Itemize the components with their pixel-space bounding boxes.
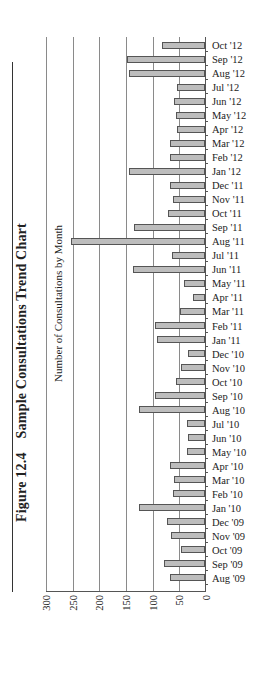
x-axis-category-label: Feb '12: [212, 152, 243, 163]
gridline: [46, 37, 47, 591]
x-axis-tick: [205, 177, 208, 178]
bar: [127, 56, 205, 63]
x-axis-tick: [205, 233, 208, 234]
x-axis-tick: [205, 191, 208, 192]
x-axis-category-label: Oct '10: [212, 377, 242, 388]
x-axis-category-label: Oct '11: [212, 208, 242, 219]
x-axis-category-label: Jul '10: [212, 419, 239, 430]
x-axis-category-label: May '10: [212, 447, 246, 458]
x-axis-category-label: Jun '12: [212, 96, 242, 107]
bar: [129, 168, 205, 175]
figure-title-text: Sample Consultations Trend Chart: [14, 223, 29, 438]
x-axis-tick: [205, 416, 208, 417]
x-axis-category-label: Jun '11: [212, 264, 241, 275]
bar: [176, 378, 205, 385]
x-axis-category-label: Mar '12: [212, 138, 245, 149]
y-axis-tick-label: 300: [41, 595, 52, 611]
x-axis-tick: [205, 51, 208, 52]
bar: [164, 560, 205, 567]
x-axis-category-label: Jan '11: [212, 335, 241, 346]
x-axis-category-label: Jun '10: [212, 433, 242, 444]
x-axis-tick: [205, 107, 208, 108]
bar: [155, 322, 205, 329]
x-axis-tick: [205, 205, 208, 206]
x-axis-tick: [205, 500, 208, 501]
x-axis-category-label: Jan '12: [212, 166, 241, 177]
x-axis-tick: [205, 360, 208, 361]
bar: [174, 98, 205, 105]
x-axis-tick: [205, 289, 208, 290]
bar: [171, 532, 205, 539]
figure-top-rule: [12, 62, 13, 592]
y-axis-tick-label: 200: [94, 595, 105, 611]
bar: [181, 546, 205, 553]
x-axis-tick: [205, 444, 208, 445]
x-axis-category-label: Dec '10: [212, 349, 244, 360]
gridline: [73, 37, 74, 591]
bar: [173, 490, 205, 497]
x-axis-tick: [205, 584, 208, 585]
bar: [170, 462, 205, 469]
x-axis-category-label: Feb '11: [212, 321, 242, 332]
x-axis-category-label: Aug '12: [212, 68, 245, 79]
x-axis-category-label: Apr '12: [212, 124, 243, 135]
bar: [155, 392, 205, 399]
x-axis-category-label: Jul '11: [212, 250, 239, 261]
x-axis-tick: [205, 514, 208, 515]
bar: [170, 154, 205, 161]
x-axis-category-label: Feb '10: [212, 489, 243, 500]
x-axis-tick: [205, 458, 208, 459]
x-axis-category-label: Oct '12: [212, 40, 242, 51]
x-axis-category-label: Sep '12: [212, 54, 243, 65]
x-axis-category-label: Nov '10: [212, 363, 245, 374]
bar: [173, 196, 205, 203]
bar: [177, 126, 205, 133]
x-axis-tick: [205, 542, 208, 543]
x-axis-category-label: May '11: [212, 278, 246, 289]
gridline: [126, 37, 127, 591]
x-axis-tick: [205, 472, 208, 473]
x-axis-category-label: May '12: [212, 110, 246, 121]
x-axis-tick: [205, 388, 208, 389]
x-axis-category-label: Dec '11: [212, 180, 244, 191]
x-axis-tick: [205, 332, 208, 333]
x-axis-tick: [205, 93, 208, 94]
x-axis-category-label: Mar '11: [212, 307, 244, 318]
x-axis-tick: [205, 149, 208, 150]
x-axis-tick: [205, 430, 208, 431]
x-axis-category-label: Sep '09: [212, 559, 243, 570]
gridline: [99, 37, 100, 591]
x-axis-tick: [205, 163, 208, 164]
bar: [134, 224, 205, 231]
bar: [187, 448, 205, 455]
x-axis-tick: [205, 402, 208, 403]
bar: [174, 476, 205, 483]
x-axis-category-label: Jul '12: [212, 82, 239, 93]
x-axis-category-label: Nov '09: [212, 531, 245, 542]
x-axis-tick: [205, 318, 208, 319]
figure-title: Figure 12.4Sample Consultations Trend Ch…: [14, 223, 30, 522]
y-axis-tick-label: 250: [67, 595, 78, 611]
x-axis-tick: [205, 570, 208, 571]
bar: [139, 406, 205, 413]
x-axis-category-label: Dec '09: [212, 517, 244, 528]
y-axis-tick-label: 50: [174, 595, 185, 606]
bar: [167, 518, 205, 525]
x-axis-category-label: Mar '10: [212, 475, 245, 486]
figure-stage: Figure 12.4Sample Consultations Trend Ch…: [0, 0, 266, 692]
x-axis-tick: [205, 486, 208, 487]
x-axis-category-label: Oct '09: [212, 545, 242, 556]
y-axis-tick-label: 150: [121, 595, 132, 611]
bar: [162, 42, 205, 49]
bar: [172, 252, 205, 259]
x-axis-tick: [205, 79, 208, 80]
bar: [181, 364, 205, 371]
bar: [170, 140, 205, 147]
bar-chart-plot-area: 050100150200250300Aug '09Sep '09Oct '09N…: [46, 37, 206, 592]
bar: [177, 84, 205, 91]
x-axis-tick: [205, 135, 208, 136]
bar: [170, 575, 205, 582]
x-axis-tick: [205, 346, 208, 347]
x-axis-category-label: Sep '10: [212, 391, 243, 402]
x-axis-category-label: Aug '11: [212, 236, 245, 247]
